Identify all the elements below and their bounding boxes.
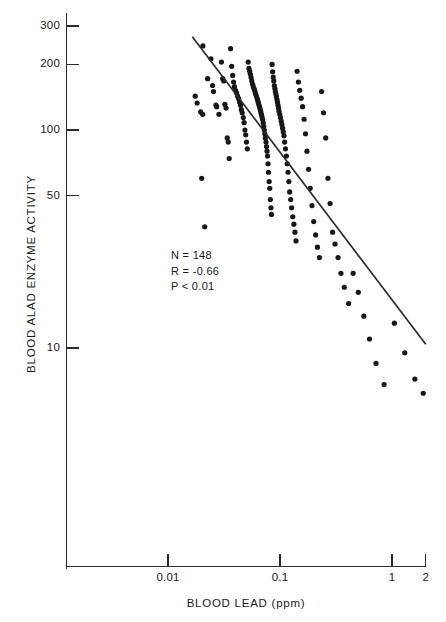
data-point (266, 170, 271, 175)
data-point (270, 69, 275, 74)
data-point (216, 112, 221, 117)
data-point (327, 201, 332, 206)
data-point (205, 76, 210, 81)
data-point (321, 110, 326, 115)
data-point (319, 89, 324, 94)
data-point (195, 100, 200, 105)
data-point (289, 205, 294, 210)
data-point (214, 104, 219, 109)
data-point (285, 170, 290, 175)
data-point (421, 391, 426, 396)
data-point (309, 203, 314, 208)
data-point (335, 255, 340, 260)
data-point (325, 176, 330, 181)
data-point (356, 290, 361, 295)
data-point (315, 245, 320, 250)
data-point (211, 89, 216, 94)
data-point (290, 214, 295, 219)
data-point (245, 146, 250, 151)
data-point (299, 96, 304, 101)
data-point (283, 146, 288, 151)
data-point (300, 104, 305, 109)
data-point (268, 205, 273, 210)
data-point (373, 361, 378, 366)
data-point (244, 140, 249, 145)
data-point (210, 83, 215, 88)
data-point (241, 115, 246, 120)
data-point (267, 179, 272, 184)
data-point (291, 222, 296, 227)
data-point (294, 69, 299, 74)
data-point (264, 144, 269, 149)
scatter-plot-figure: 3002001005010 0.010.112 BLOOD ALAD ENZYM… (0, 0, 446, 622)
data-point (228, 46, 233, 51)
data-point (193, 94, 198, 99)
data-point (226, 140, 231, 145)
data-point (361, 314, 366, 319)
data-point (243, 132, 248, 137)
data-point (229, 64, 234, 69)
data-point (242, 127, 247, 132)
data-point (351, 271, 356, 276)
data-point (223, 106, 228, 111)
data-point (297, 88, 302, 93)
data-point (246, 59, 251, 64)
data-point (392, 321, 397, 326)
data-point (412, 377, 417, 382)
data-point (303, 131, 308, 136)
data-point (292, 230, 297, 235)
data-point (265, 153, 270, 158)
regression-line (192, 37, 425, 345)
data-point (367, 336, 372, 341)
data-points-group (193, 43, 426, 396)
data-point (264, 149, 269, 154)
data-point (304, 149, 309, 154)
data-point (242, 120, 247, 125)
data-point (317, 255, 322, 260)
data-point (311, 219, 316, 224)
data-point (230, 73, 235, 78)
data-point (263, 140, 268, 145)
data-point (313, 232, 318, 237)
data-point (269, 62, 274, 67)
data-point (199, 176, 204, 181)
data-point (219, 59, 224, 64)
data-point (271, 78, 276, 83)
data-point (288, 197, 293, 202)
data-point (282, 140, 287, 145)
data-point (338, 271, 343, 276)
data-point (269, 212, 274, 217)
data-point (287, 189, 292, 194)
data-point (286, 179, 291, 184)
data-point (231, 79, 236, 84)
data-point (293, 238, 298, 243)
data-point (301, 117, 306, 122)
plot-data-layer (0, 0, 446, 622)
data-point (381, 382, 386, 387)
data-point (268, 197, 273, 202)
data-point (227, 156, 232, 161)
data-point (281, 133, 286, 138)
data-point (200, 112, 205, 117)
data-point (332, 241, 337, 246)
data-point (240, 110, 245, 115)
data-point (265, 161, 270, 166)
data-point (330, 230, 335, 235)
data-point (323, 135, 328, 140)
data-point (306, 167, 311, 172)
data-point (342, 285, 347, 290)
data-point (296, 79, 301, 84)
data-point (402, 350, 407, 355)
data-point (267, 186, 272, 191)
data-point (202, 224, 207, 229)
data-point (346, 301, 351, 306)
